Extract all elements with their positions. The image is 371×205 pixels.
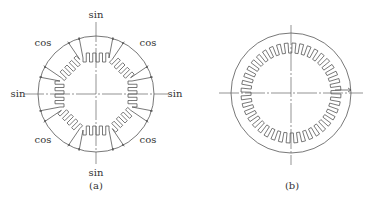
terminal-dot-icon <box>122 42 124 44</box>
terminal-dot-icon <box>150 76 152 78</box>
label-cos-top-left: cos <box>35 37 52 48</box>
terminal-dot-icon <box>112 38 114 40</box>
label-sin-top: sin <box>89 9 104 20</box>
terminal-dot-icon <box>68 42 70 44</box>
terminal-dot-icon <box>78 38 80 40</box>
diagram-canvas: sin sin sin sin cos cos cos cos (a) (b) <box>0 0 371 205</box>
terminal-dot-icon <box>146 66 148 68</box>
label-cos-top-right: cos <box>140 37 157 48</box>
terminal-dot-icon <box>112 148 114 150</box>
terminal-dot-icon <box>146 120 148 122</box>
label-cos-bottom-right: cos <box>140 134 157 145</box>
resolver-winding-diagram: sin sin sin sin cos cos cos cos (a) (b) <box>0 0 371 205</box>
label-sin-left: sin <box>11 88 26 99</box>
terminal-dot-icon <box>122 144 124 146</box>
terminal-dot-icon <box>78 148 80 150</box>
terminal-dot-icon <box>44 66 46 68</box>
terminal-dot-icon <box>40 110 42 112</box>
label-sin-bottom: sin <box>89 167 104 178</box>
label-sin-right: sin <box>168 88 183 99</box>
caption-a: (a) <box>89 180 103 191</box>
terminal-dot-icon <box>150 110 152 112</box>
caption-b: (b) <box>285 180 299 191</box>
terminal-dot-icon <box>44 120 46 122</box>
terminal-dot-icon <box>68 144 70 146</box>
label-cos-bottom-left: cos <box>35 134 52 145</box>
figure-a: sin sin sin sin cos cos cos cos (a) <box>11 9 183 191</box>
figure-b: (b) <box>219 25 363 191</box>
terminal-dot-icon <box>40 76 42 78</box>
figure-b-terminal-arrow-icon <box>335 88 351 92</box>
